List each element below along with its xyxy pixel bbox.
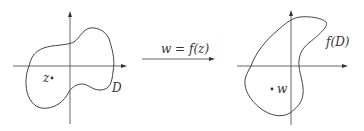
point-w-label: w [277, 82, 288, 96]
mapping-arrow-icon [209, 57, 215, 61]
point-z-label: z [42, 71, 50, 85]
region-fd-label: f(D) [325, 35, 350, 49]
right-real-axis-arrow-icon [342, 64, 348, 68]
right-plane: w f(D) [237, 10, 350, 125]
mapping-arrow: w = f(z) [142, 42, 215, 61]
right-imag-axis-arrow-icon [289, 10, 293, 16]
conformal-mapping-diagram: z D w = f(z) w f(D) [0, 0, 364, 131]
left-plane: z D [13, 11, 127, 124]
left-real-axis-arrow-icon [121, 64, 127, 68]
region-d-label: D [111, 81, 122, 95]
point-z-dot [51, 77, 54, 80]
left-imag-axis-arrow-icon [68, 11, 72, 17]
mapping-label: w = f(z) [161, 42, 209, 56]
point-w-dot [271, 88, 274, 91]
